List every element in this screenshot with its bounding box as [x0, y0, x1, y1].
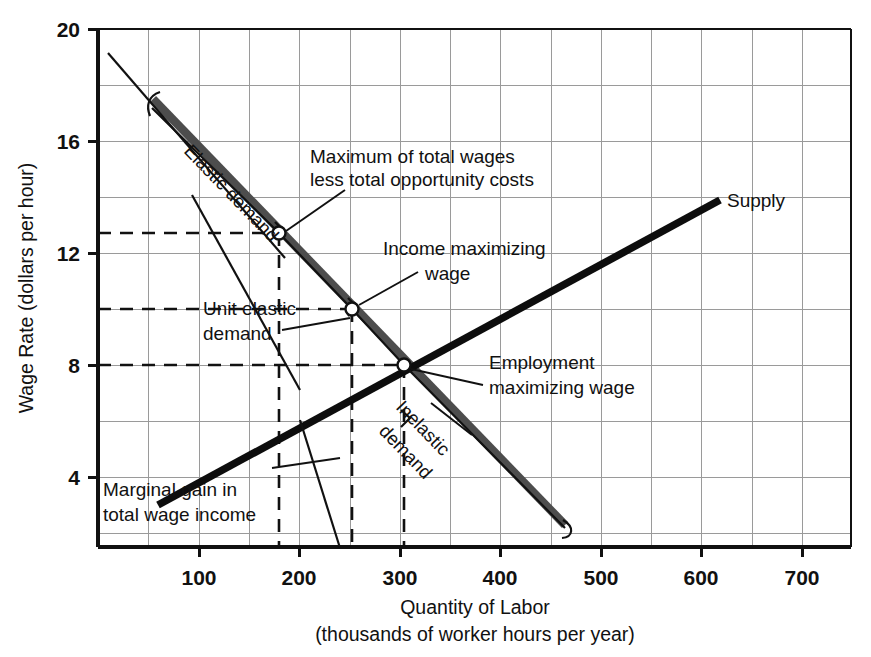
- y-tick-16: 16: [57, 130, 80, 153]
- annotation-max-total-wages-line1: Maximum of total wages: [310, 146, 515, 167]
- annotation-marginal-gain-line2: total wage income: [103, 504, 256, 525]
- y-tick-12: 12: [57, 242, 80, 265]
- x-tick-300: 300: [382, 566, 417, 589]
- y-axis-title: Wage Rate (dollars per hour): [15, 163, 37, 414]
- annotation-employment-max-line2: maximizing wage: [489, 377, 635, 398]
- x-axis-title: Quantity of Labor: [400, 596, 550, 618]
- chart-svg: 20 16 12 8 4 100 200 300 400 500 600 700…: [0, 0, 871, 657]
- annotation-marginal-gain-line1: Marginal gain in: [103, 479, 237, 500]
- annotation-employment-max-line1: Employment: [489, 352, 595, 373]
- x-tick-400: 400: [482, 566, 517, 589]
- x-axis-subtitle: (thousands of worker hours per year): [315, 623, 635, 645]
- point-employment-maximizing-wage[interactable]: [398, 359, 411, 372]
- y-tick-20: 20: [57, 18, 80, 41]
- x-tick-200: 200: [281, 566, 316, 589]
- y-tick-4: 4: [68, 466, 80, 489]
- x-tick-500: 500: [583, 566, 618, 589]
- x-tick-100: 100: [181, 566, 216, 589]
- annotation-supply: Supply: [727, 190, 786, 211]
- chart-background: [0, 0, 871, 657]
- x-tick-700: 700: [784, 566, 819, 589]
- annotation-max-total-wages-line2: less total opportunity costs: [310, 169, 534, 190]
- annotation-income-max-line2: wage: [424, 263, 470, 284]
- x-tick-600: 600: [683, 566, 718, 589]
- y-tick-8: 8: [68, 354, 80, 377]
- annotation-unit-elastic-line1: Unit elastic: [203, 298, 296, 319]
- labor-market-chart: 20 16 12 8 4 100 200 300 400 500 600 700…: [0, 0, 871, 657]
- annotation-income-max-line1: Income maximizing: [383, 238, 546, 259]
- annotation-unit-elastic-line2: demand: [203, 323, 272, 344]
- point-income-maximizing-wage[interactable]: [346, 303, 359, 316]
